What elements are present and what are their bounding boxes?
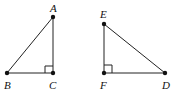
triangle-efd	[104, 24, 165, 73]
side-ed	[104, 24, 165, 73]
point-d	[163, 71, 167, 75]
point-f	[102, 71, 106, 75]
point-e	[102, 22, 106, 26]
label-f: F	[99, 79, 107, 91]
point-c	[51, 71, 55, 75]
label-b: B	[4, 79, 11, 91]
label-a: A	[49, 2, 57, 14]
point-a	[51, 15, 55, 19]
label-e: E	[99, 8, 107, 20]
triangles-diagram: A B C E F D	[0, 0, 177, 93]
triangle-abc	[7, 17, 53, 73]
label-d: D	[161, 79, 170, 91]
side-ab	[7, 17, 53, 73]
point-b	[5, 71, 9, 75]
label-c: C	[49, 79, 57, 91]
